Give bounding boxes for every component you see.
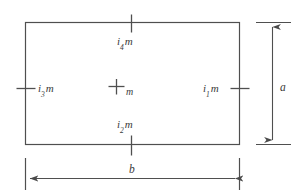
label-bottom-edge-i2m: i2m	[117, 119, 133, 130]
center-cross-marker	[109, 79, 125, 95]
label-left-edge-i3m: i3m	[38, 83, 54, 94]
label-center-m: m	[126, 87, 133, 97]
label-top-edge-i4m: i4m	[117, 36, 133, 47]
diagram-canvas	[0, 0, 302, 192]
dimension-label-b: b	[129, 164, 135, 176]
label-right-edge-i1m: i1m	[203, 83, 219, 94]
figure-container: i4m i2m i3m i1m m a b	[0, 0, 302, 192]
dimension-label-a: a	[280, 82, 286, 94]
